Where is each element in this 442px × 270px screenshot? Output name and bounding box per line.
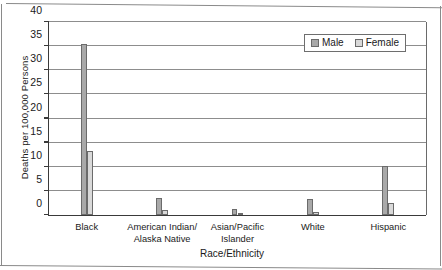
y-axis-tick-label: 25 [30, 76, 42, 88]
legend-entry-male: Male [311, 37, 344, 48]
x-axis-category-label: Black [75, 222, 98, 234]
plot-right-edge [426, 22, 427, 215]
x-axis-category-label: Asian/PacificIslander [211, 222, 264, 245]
x-axis-category-label: White [301, 222, 325, 234]
x-axis-category-label: American Indian/Alaska Native [127, 222, 197, 245]
chart-figure: Deaths per 100,000 Persons Race/Ethnicit… [0, 0, 442, 270]
figure-border-bottom [0, 265, 442, 269]
bar-female [313, 212, 319, 215]
y-axis-tick-label: 15 [30, 125, 42, 137]
chart-legend: MaleFemale [304, 34, 406, 52]
bar-female [162, 210, 168, 215]
legend-label: Male [322, 37, 344, 48]
bar-male [382, 166, 388, 215]
bar-male [307, 199, 313, 215]
y-axis-tick-label: 35 [30, 28, 42, 40]
y-axis-title: Deaths per 100,000 Persons [19, 18, 30, 218]
x-axis-category-label: Hispanic [370, 222, 406, 234]
y-axis-tick-label: 40 [30, 4, 42, 16]
bar-male [156, 198, 162, 215]
x-axis-title: Race/Ethnicity [0, 248, 442, 259]
figure-border-top [6, 3, 442, 8]
legend-swatch-icon [311, 39, 319, 47]
legend-entry-female: Female [355, 37, 399, 48]
y-axis-tick-label: 5 [36, 173, 42, 185]
figure-border-left [1, 4, 2, 266]
bar-male [81, 44, 87, 215]
bar-group: Asian/PacificIslander [200, 22, 275, 215]
bar-female [87, 151, 93, 215]
y-axis-tick-label: 20 [30, 101, 42, 113]
figure-border-right [440, 6, 441, 266]
y-axis-tick-label: 10 [30, 149, 42, 161]
legend-label: Female [366, 37, 399, 48]
y-axis-tick-label: 30 [30, 52, 42, 64]
bar-group: American Indian/Alaska Native [124, 22, 199, 215]
legend-swatch-icon [355, 39, 363, 47]
bar-male [232, 209, 238, 215]
y-axis-tick-label: 0 [36, 197, 42, 209]
bar-group: Black [49, 22, 124, 215]
bar-female [238, 213, 244, 215]
bar-female [388, 203, 394, 215]
